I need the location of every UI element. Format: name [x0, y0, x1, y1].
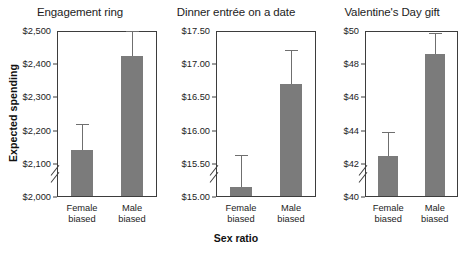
error-bar-line — [388, 132, 389, 156]
category-label-line1: Male — [412, 203, 459, 214]
panel-container: Engagement ringFemalebiasedMalebiased$2,… — [0, 0, 472, 257]
category-label-line1: Female — [365, 203, 412, 214]
category-label-line2: biased — [365, 214, 412, 225]
panel-title: Valentine's Day gift — [312, 6, 472, 18]
bar — [425, 54, 445, 196]
figure-bar-chart-panels: Expected spending Engagement ringFemaleb… — [0, 0, 472, 257]
error-bar-cap — [382, 132, 395, 133]
y-tick-mark — [361, 130, 365, 131]
error-bar-line — [435, 33, 436, 55]
y-tick-mark — [361, 163, 365, 164]
bar — [378, 156, 398, 196]
y-tick-mark — [361, 197, 365, 198]
category-label: Malebiased — [412, 203, 459, 225]
axis-break-icon — [359, 175, 373, 191]
y-tick-mark — [361, 64, 365, 65]
plot-area: $40$42$44$46$48$50 — [365, 31, 458, 197]
chart-panel-3: Valentine's Day giftFemalebiasedMalebias… — [0, 0, 472, 257]
x-axis-label: Sex ratio — [160, 232, 312, 244]
y-tick-label: $50 — [343, 26, 365, 36]
category-label-line2: biased — [412, 214, 459, 225]
error-bar-cap — [429, 33, 442, 34]
category-label: Femalebiased — [365, 203, 412, 225]
y-tick-mark — [361, 97, 365, 98]
